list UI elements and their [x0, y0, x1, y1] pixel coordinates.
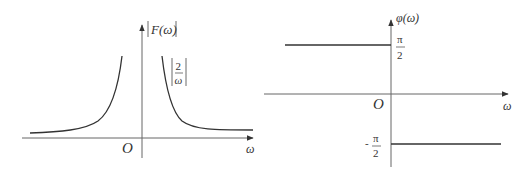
curve-label-denominator: ω — [175, 74, 183, 86]
curve-label-numerator: 2 — [176, 60, 182, 72]
tick-pi-half-denominator: 2 — [397, 49, 403, 61]
x-axis-label: ω — [246, 142, 254, 156]
tick-neg-sign: - — [365, 137, 369, 149]
x-axis-label: ω — [503, 99, 511, 113]
tick-pi-half-numerator: π — [397, 33, 403, 45]
magnitude-curve-left — [30, 56, 122, 133]
tick-neg-pi-half-denominator: 2 — [373, 147, 379, 159]
origin-label: O — [122, 140, 133, 156]
tick-neg-pi-half-numerator: π — [373, 132, 379, 144]
phase-chart: φ(ω) π 2 - π 2 O ω — [264, 11, 511, 167]
y-axis-label: φ(ω) — [396, 11, 419, 25]
y-axis-label: F(ω) — [150, 22, 177, 37]
magnitude-chart: F(ω) 2 ω O ω — [22, 21, 254, 158]
chart-canvas: F(ω) 2 ω O ω φ(ω) π 2 - π 2 O ω — [0, 0, 527, 174]
origin-label: O — [373, 96, 384, 112]
